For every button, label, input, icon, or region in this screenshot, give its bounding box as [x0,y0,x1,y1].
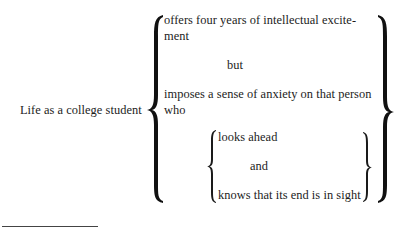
outer-line1b: ment [164,29,189,43]
outer-line2a: imposes a sense of anxiety on that perso… [164,87,371,101]
inner-line1: looks ahead [218,130,277,144]
inner-left-brace-icon [205,129,219,204]
outer-line1a: offers four years of intellectual excite… [164,13,356,27]
inner-line2: knows that its end is in sight [218,188,361,202]
footnote-rule [2,226,98,227]
subject-label: Life as a college student [20,103,142,117]
outer-line2b: who [164,103,186,117]
inner-connector: and [250,159,268,173]
outer-right-brace-icon [374,13,396,205]
outer-connector: but [227,58,243,72]
inner-right-brace-icon [360,131,374,203]
